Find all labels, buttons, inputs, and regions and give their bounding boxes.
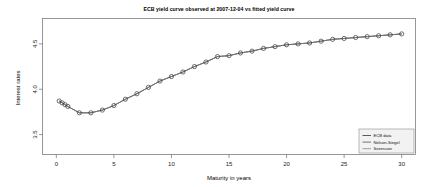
x-axis-label: Maturity in years [207, 175, 251, 181]
series-line [59, 34, 402, 113]
series-line [59, 34, 402, 113]
y-tick-label: 4.5 [32, 39, 38, 48]
x-tick-label: 30 [398, 161, 405, 167]
series-line [59, 34, 402, 113]
y-tick-label: 4.0 [32, 84, 38, 93]
legend-item-label[interactable]: Svensson [374, 146, 393, 151]
x-tick-label: 5 [112, 161, 116, 167]
y-tick-label: 3.5 [32, 130, 38, 139]
x-tick-label: 25 [341, 161, 348, 167]
chart-legend[interactable]: ECB dataNelson-SiegelSvensson [359, 129, 414, 153]
chart-container: ECB yield curve observed at 2007-12-04 v… [0, 0, 438, 187]
legend-item-label[interactable]: Nelson-Siegel [374, 140, 400, 145]
legend-item-label[interactable]: ECB data [374, 133, 393, 138]
x-tick-label: 0 [55, 161, 59, 167]
x-tick-label: 10 [168, 161, 175, 167]
y-axis-label: Interest rates [15, 70, 21, 105]
x-tick-label: 20 [283, 161, 290, 167]
yield-curve-plot: 051015202530 3.54.04.5 ECB dataNelson-Si… [0, 0, 438, 187]
data-series-layer [57, 32, 404, 115]
y-axis-ticks: 3.54.04.5 [32, 39, 42, 139]
x-tick-label: 15 [226, 161, 233, 167]
x-axis-ticks: 051015202530 [55, 155, 406, 167]
